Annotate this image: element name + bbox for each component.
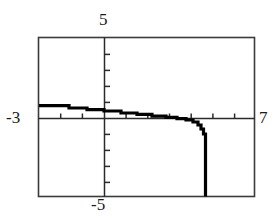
y-min-label: -5	[91, 196, 105, 213]
plot-canvas	[0, 0, 277, 222]
plot-frame	[39, 38, 255, 197]
y-max-label: 5	[99, 11, 108, 28]
x-max-label: 7	[259, 109, 268, 126]
x-min-label: -3	[6, 109, 20, 126]
graph-screenshot: 5 -3 7 -5	[0, 0, 277, 222]
